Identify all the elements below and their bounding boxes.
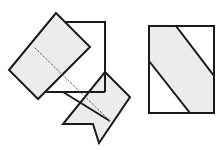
result-panel — [149, 26, 214, 113]
figure-canvas: Folded diagonal strip on a square sheet — [0, 0, 223, 150]
